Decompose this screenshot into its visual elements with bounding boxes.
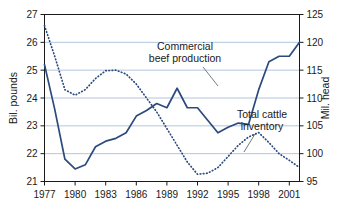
chart-background (0, 0, 344, 210)
total-cattle-inventory-label-line2: inventory (241, 120, 284, 132)
y-axis-left-tick-label: 26 (26, 37, 38, 48)
x-axis-tick-label: 1998 (248, 189, 271, 200)
y-axis-right-tick-label: 115 (307, 65, 323, 76)
chart-container: 21222324252627 95100105110115120125 1977… (0, 0, 344, 210)
y-axis-left-tick-label: 21 (26, 176, 38, 187)
y-axis-right-tick-label: 120 (307, 37, 324, 48)
y-axis-left-tick-label: 23 (26, 120, 38, 131)
y-axis-right-tick-label: 100 (307, 148, 324, 159)
x-axis-tick-label: 2001 (278, 189, 301, 200)
y-axis-left-tick-label: 24 (26, 93, 38, 104)
commercial-beef-production-label-line1: Commercial (157, 40, 213, 52)
x-axis-tick-label: 1977 (33, 189, 56, 200)
y-axis-left-tick-label: 22 (26, 148, 38, 159)
x-axis-tick-label: 1986 (125, 189, 148, 200)
y-axis-left-tick-label: 27 (26, 9, 38, 20)
y-axis-right-tick-label: 95 (307, 176, 319, 187)
y-axis-left-title: Bil. pounds (7, 72, 19, 124)
two-axis-line-chart: 21222324252627 95100105110115120125 1977… (0, 0, 344, 210)
x-axis-tick-label: 1983 (95, 189, 118, 200)
y-axis-right-title: Mil. head (319, 77, 331, 120)
x-axis-tick-label: 1989 (156, 189, 179, 200)
x-axis-tick-label: 1980 (64, 189, 87, 200)
x-axis-tick-labels: 197719801983198619891992199519982001 (33, 189, 300, 200)
total-cattle-inventory-label-line1: Total cattle (237, 108, 287, 120)
y-axis-right-tick-label: 105 (307, 120, 324, 131)
y-axis-left-tick-label: 25 (26, 65, 38, 76)
commercial-beef-production-label-line2: beef production (149, 52, 222, 64)
x-axis-tick-label: 1995 (217, 189, 240, 200)
y-axis-right-tick-label: 125 (307, 9, 324, 20)
x-axis-tick-label: 1992 (186, 189, 209, 200)
